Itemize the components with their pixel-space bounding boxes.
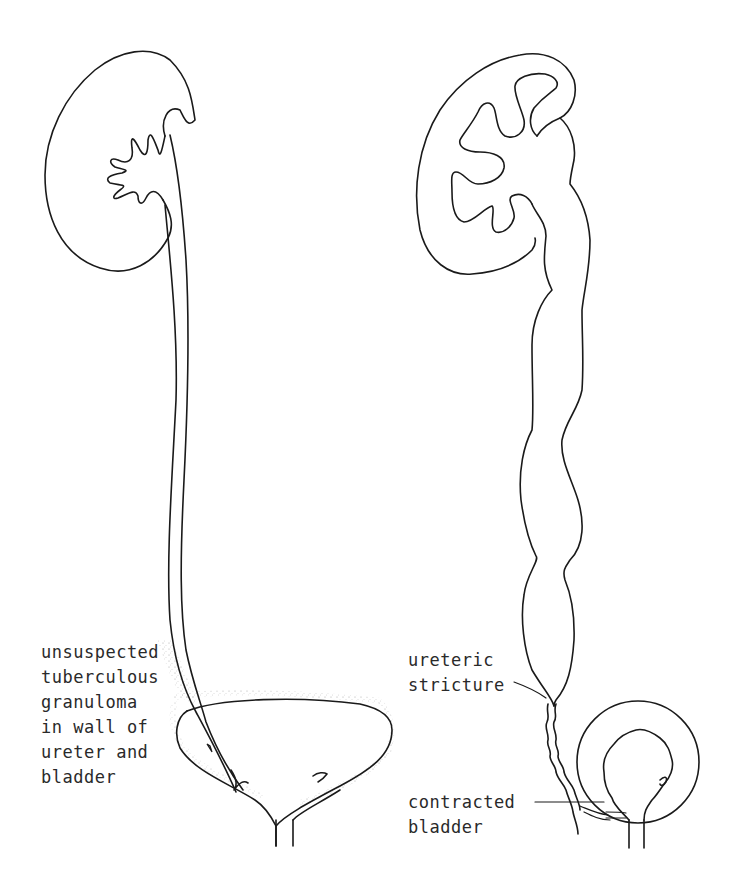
- annotation-line: ureter and: [41, 740, 159, 765]
- annotation-line: ureteric: [408, 648, 505, 673]
- right-bladder-mark: [660, 777, 667, 785]
- ureteric-stricture-label: ureteric stricture: [408, 648, 505, 698]
- contracted-bladder-label: contracted bladder: [408, 790, 515, 840]
- annotation-line: granuloma: [41, 690, 159, 715]
- left-ureter-inner-mark: [207, 744, 212, 752]
- granuloma-annotation: unsuspected tuberculous granuloma in wal…: [41, 640, 159, 790]
- right-urethra: [629, 820, 644, 848]
- annotation-line: stricture: [408, 673, 505, 698]
- diagram-canvas: unsuspected tuberculous granuloma in wal…: [0, 0, 749, 883]
- right-ureter-entry: [580, 806, 626, 820]
- left-bladder-mark: [313, 773, 327, 782]
- right-contracted-bladder-cavity: [604, 729, 673, 820]
- granuloma-stipple: [157, 640, 394, 805]
- left-bladder-outline-left: [177, 711, 276, 826]
- right-kidney-outline: [417, 54, 576, 274]
- annotation-line: tuberculous: [41, 665, 159, 690]
- annotation-line: bladder: [41, 765, 159, 790]
- right-ureter-left-wall: [520, 204, 554, 706]
- right-bladder-thick-wall: [577, 701, 699, 823]
- right-diseased-system: [417, 54, 699, 848]
- annotation-line: bladder: [408, 815, 515, 840]
- ureteric-stricture-wall-a: [546, 704, 578, 834]
- annotation-line: unsuspected: [41, 640, 159, 665]
- right-dilated-pelvis: [452, 74, 558, 233]
- annotation-line: contracted: [408, 790, 515, 815]
- left-renal-pelvis: [108, 135, 165, 203]
- annotation-line: in wall of: [41, 715, 159, 740]
- right-ureter-right-wall: [554, 118, 590, 706]
